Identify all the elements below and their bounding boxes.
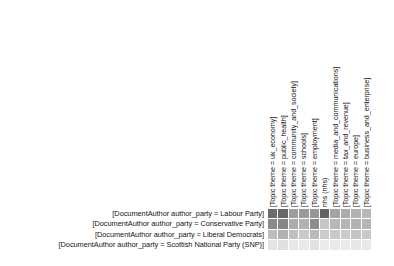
heatmap-cell [289, 219, 299, 229]
heatmap-cell [268, 219, 278, 229]
heatmap-cell [268, 240, 278, 250]
column-label-text: [Topic theme = media_and_communications] [332, 67, 339, 207]
heatmap-cell [351, 209, 361, 219]
heatmap-cell [278, 209, 288, 219]
column-label-3: [Topic theme = schools] [299, 0, 309, 208]
column-axis-labels: [Topic theme = uk_economy][Topic theme =… [268, 0, 372, 208]
heatmap-cell [268, 230, 278, 240]
column-label-text: [Topic theme = uk_economy] [270, 117, 277, 207]
heatmap-cell [278, 230, 288, 240]
heatmap-figure: [Topic theme = uk_economy][Topic theme =… [0, 0, 394, 266]
heatmap-cell [320, 209, 330, 219]
heatmap-cell [362, 219, 372, 229]
heatmap-row [268, 209, 372, 219]
heatmap-cell [341, 219, 351, 229]
heatmap-cell [289, 240, 299, 250]
column-label-2: [Topic theme = community_and_society] [289, 0, 299, 208]
column-label-0: [Topic theme = uk_economy] [268, 0, 278, 208]
row-label-1: [DocumentAuthor author_party = Conservat… [93, 219, 264, 229]
heatmap-row [268, 240, 372, 250]
heatmap-cell [299, 219, 309, 229]
heatmap-row [268, 219, 372, 229]
column-label-6: [Topic theme = media_and_communications] [330, 0, 340, 208]
heatmap-cell [320, 240, 330, 250]
column-label-text: [Topic theme = employment] [311, 118, 318, 207]
column-label-text: [Topic theme = public_health] [280, 115, 287, 207]
heatmap-cell [351, 230, 361, 240]
column-label-1: [Topic theme = public_health] [278, 0, 288, 208]
heatmap-grid [268, 209, 372, 251]
heatmap-cell [289, 209, 299, 219]
heatmap-cell [320, 219, 330, 229]
heatmap-cell [289, 230, 299, 240]
row-label-2: [DocumentAuthor author_party = Liberal D… [95, 230, 264, 240]
heatmap-cell [320, 230, 330, 240]
column-label-4: [Topic theme = employment] [310, 0, 320, 208]
heatmap-cell [299, 209, 309, 219]
heatmap-cell [341, 209, 351, 219]
heatmap-cell [330, 209, 340, 219]
heatmap-cell [362, 230, 372, 240]
column-label-7: [Topic theme = tax_and_revenue] [341, 0, 351, 208]
row-label-0: [DocumentAuthor author_party = Labour Pa… [112, 209, 264, 219]
column-label-text: [Topic theme = community_and_society] [290, 81, 297, 207]
column-label-5: nhs (nhs) [320, 0, 330, 208]
column-label-text: [Topic theme = tax_and_revenue] [342, 102, 349, 207]
heatmap-cell [310, 209, 320, 219]
heatmap-cell [362, 240, 372, 250]
column-label-text: nhs (nhs) [322, 177, 329, 207]
column-label-text: [Topic theme = schools] [301, 133, 308, 207]
heatmap-cell [310, 219, 320, 229]
heatmap-cell [341, 230, 351, 240]
heatmap-cell [330, 230, 340, 240]
heatmap-cell [362, 209, 372, 219]
heatmap-cell [341, 240, 351, 250]
row-label-3: [DocumentAuthor author_party = Scottish … [59, 240, 264, 250]
column-label-text: [Topic theme = europe] [353, 135, 360, 207]
heatmap-row [268, 230, 372, 240]
heatmap-cell [330, 240, 340, 250]
heatmap-cell [268, 209, 278, 219]
heatmap-cell [299, 240, 309, 250]
heatmap-cell [310, 240, 320, 250]
heatmap-cell [330, 219, 340, 229]
heatmap-cell [278, 240, 288, 250]
heatmap-cell [278, 219, 288, 229]
heatmap-cell [299, 230, 309, 240]
heatmap-cell [351, 240, 361, 250]
row-axis-labels: [DocumentAuthor author_party = Labour Pa… [0, 209, 266, 251]
column-label-text: [Topic theme = business_and_enterprise] [363, 78, 370, 207]
column-label-9: [Topic theme = business_and_enterprise] [362, 0, 372, 208]
heatmap-cell [310, 230, 320, 240]
column-label-8: [Topic theme = europe] [351, 0, 361, 208]
heatmap-cell [351, 219, 361, 229]
